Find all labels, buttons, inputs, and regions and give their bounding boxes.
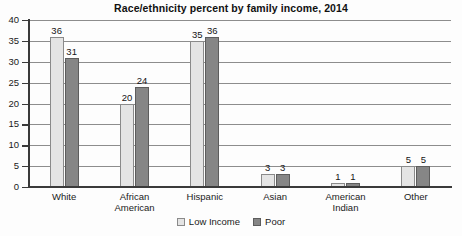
bar-value-label: 3 — [272, 163, 294, 173]
y-axis-label-30: 30 — [0, 57, 19, 66]
legend-item-low-income[interactable]: Low Income — [177, 216, 240, 227]
gridline-30 — [29, 62, 451, 63]
gridline-40 — [29, 20, 451, 21]
x-axis-label-line: Indian — [306, 202, 386, 213]
y-axis-label-0: 0 — [0, 182, 19, 191]
y-tick-40 — [22, 20, 29, 21]
bar-poor-african-american[interactable] — [135, 87, 149, 187]
gridline-15 — [29, 124, 451, 125]
legend-label: Low Income — [189, 216, 240, 227]
x-axis-label-other: Other — [376, 191, 456, 202]
gridline-35 — [29, 41, 451, 42]
y-axis-label-5: 5 — [0, 161, 19, 170]
x-axis-label-hispanic: Hispanic — [165, 191, 245, 202]
legend-swatch-icon — [253, 218, 261, 226]
chart-title: Race/ethnicity percent by family income,… — [0, 2, 462, 14]
x-axis-label-line: American — [306, 191, 386, 202]
bar-value-label: 1 — [342, 172, 364, 182]
x-axis-label-line: Other — [376, 191, 456, 202]
gridline-20 — [29, 104, 451, 105]
x-axis-label-white: White — [24, 191, 104, 202]
x-axis-label-african-american: AfricanAmerican — [95, 191, 175, 213]
legend-swatch-icon — [177, 218, 185, 226]
bar-value-label: 31 — [61, 47, 83, 57]
y-tick-15 — [22, 124, 29, 125]
y-axis-label-10: 10 — [0, 140, 19, 149]
bar-low-income-hispanic[interactable] — [190, 41, 204, 187]
bar-value-label: 36 — [46, 26, 68, 36]
x-axis-label-asian: Asian — [235, 191, 315, 202]
legend-item-poor[interactable]: Poor — [253, 216, 285, 227]
legend-label: Poor — [265, 216, 285, 227]
chart-legend: Low IncomePoor — [0, 216, 462, 227]
y-axis-label-15: 15 — [0, 119, 19, 128]
bar-low-income-other[interactable] — [401, 166, 415, 187]
y-axis-label-20: 20 — [0, 99, 19, 108]
chart-container: Race/ethnicity percent by family income,… — [0, 0, 462, 236]
y-tick-25 — [22, 83, 29, 84]
x-axis-label-line: Asian — [235, 191, 315, 202]
bar-low-income-white[interactable] — [50, 37, 64, 187]
y-tick-10 — [22, 145, 29, 146]
y-axis-label-40: 40 — [0, 15, 19, 24]
bar-value-label: 24 — [131, 76, 153, 86]
bar-poor-other[interactable] — [416, 166, 430, 187]
bar-poor-hispanic[interactable] — [205, 37, 219, 187]
y-tick-30 — [22, 62, 29, 63]
x-axis-line — [28, 186, 452, 188]
gridline-5 — [29, 166, 451, 167]
x-axis-label-line: White — [24, 191, 104, 202]
x-axis-label-line: African — [95, 191, 175, 202]
bar-value-label: 36 — [201, 26, 223, 36]
bar-low-income-african-american[interactable] — [120, 104, 134, 188]
gridline-25 — [29, 83, 451, 84]
x-axis-label-line: Hispanic — [165, 191, 245, 202]
x-axis-label-line: American — [95, 202, 175, 213]
y-tick-5 — [22, 166, 29, 167]
x-axis-label-american-indian: AmericanIndian — [306, 191, 386, 213]
y-tick-35 — [22, 41, 29, 42]
y-axis-label-25: 25 — [0, 78, 19, 87]
plot-area: 363120243536331155 — [29, 20, 451, 187]
gridline-10 — [29, 145, 451, 146]
y-tick-0 — [22, 187, 29, 188]
bar-value-label: 5 — [412, 155, 434, 165]
bar-poor-white[interactable] — [65, 58, 79, 187]
y-tick-20 — [22, 104, 29, 105]
y-axis-label-35: 35 — [0, 36, 19, 45]
